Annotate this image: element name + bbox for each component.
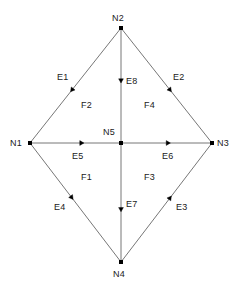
edge-label-e3: E3 [176,202,187,212]
arrowhead-e5 [80,141,84,146]
node-label-n2: N2 [112,13,124,23]
node-dot-n5[interactable] [119,141,123,145]
arrowhead-e6 [166,141,170,146]
edge-label-e4: E4 [54,202,65,212]
face-label-f1: F1 [81,172,92,182]
arrowhead-e4 [69,195,73,200]
edge-label-e7: E7 [126,199,137,209]
edge-label-e1: E1 [57,72,68,82]
node-dot-n1[interactable] [28,141,32,145]
edge-label-e6: E6 [162,151,173,161]
face-label-f3: F3 [144,172,155,182]
edge-label-e5: E5 [72,151,83,161]
diagram-canvas [0,0,241,291]
arrowhead-e3 [167,196,171,201]
node-label-n1: N1 [10,138,22,148]
face-label-f2: F2 [81,100,92,110]
edge-label-e8: E8 [126,76,137,86]
node-dot-n3[interactable] [210,141,214,145]
face-label-f4: F4 [144,100,155,110]
edge-label-e2: E2 [173,72,184,82]
node-label-n3: N3 [217,138,229,148]
edge-line-e1 [30,28,121,143]
node-dot-n4[interactable] [119,260,123,264]
graph-diagram: N1 N2 N3 N4 N5 E1 E2 E3 E4 E5 E6 E7 E8 F… [0,0,241,291]
arrowhead-e7 [119,208,124,212]
arrowhead-e8 [119,79,124,83]
node-dot-n2[interactable] [119,26,123,30]
node-label-n4: N4 [113,269,125,279]
node-label-n5: N5 [103,127,115,137]
